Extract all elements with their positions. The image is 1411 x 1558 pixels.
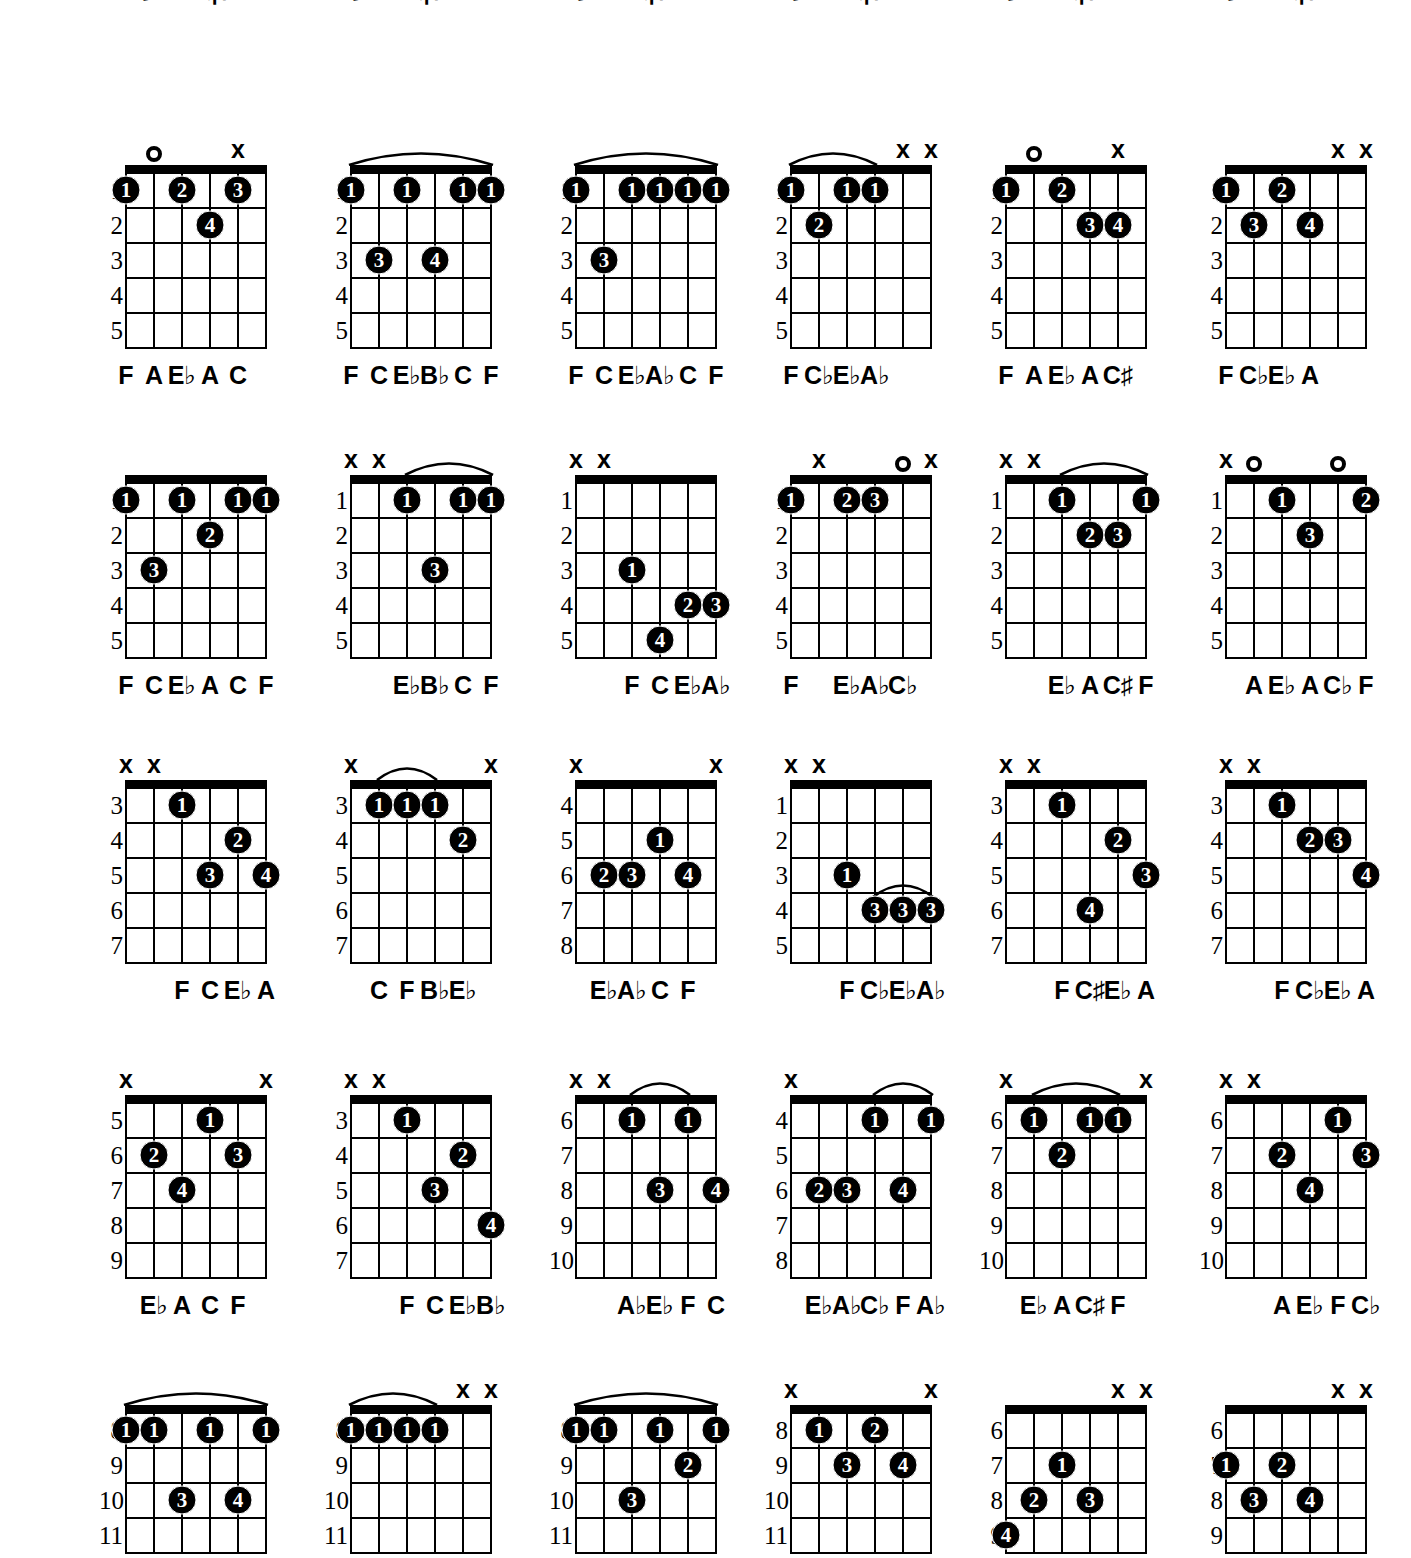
fret-number: 2 xyxy=(764,827,788,852)
chord-diagram[interactable]: 6789xx1234 xyxy=(1195,1390,1411,1558)
fret-line xyxy=(575,1207,717,1209)
muted-string-marker: x xyxy=(812,752,826,777)
fret-line xyxy=(125,1517,267,1519)
chord-diagram[interactable]: 34567xx1234FCE♭B♭ xyxy=(320,1080,555,1388)
open-string-marker xyxy=(1026,146,1042,162)
finger-dot: 1 xyxy=(1132,485,1161,514)
chord-diagram[interactable]: 12345xx1113E♭B♭CF xyxy=(320,460,555,768)
fret-line xyxy=(790,787,932,789)
note-name: E♭ xyxy=(833,673,862,698)
chord-diagram[interactable]: 12345xx1112FC♭E♭A♭ xyxy=(760,150,995,458)
chord-diagram[interactable]: 12345xx1234FC♭E♭A xyxy=(1195,150,1411,458)
fret-line xyxy=(1005,1517,1147,1519)
chord-diagram[interactable]: 12345111134FCE♭B♭CF xyxy=(320,150,555,458)
chord-diagram[interactable]: 891011111134 xyxy=(95,1390,330,1558)
fret-number: 10 xyxy=(99,1487,123,1512)
fret-line xyxy=(125,1552,267,1554)
string-line xyxy=(237,1102,239,1277)
fret-number: 6 xyxy=(1199,1107,1223,1132)
chord-diagram[interactable]: 12345x1234FAE♭AC♯ xyxy=(975,150,1210,458)
fret-number: 5 xyxy=(324,862,348,887)
chord-diagram[interactable]: 34567xx1234FCE♭A xyxy=(95,765,330,1073)
string-line xyxy=(209,482,211,657)
fret-line xyxy=(790,657,932,659)
fret-number: 6 xyxy=(979,1107,1003,1132)
note-name: C xyxy=(679,363,697,388)
finger-dot: 2 xyxy=(674,1450,703,1479)
finger-dot: 1 xyxy=(112,175,141,204)
fret-number: 2 xyxy=(99,522,123,547)
fret-line xyxy=(1005,1242,1147,1244)
muted-string-marker: x xyxy=(1331,1377,1345,1402)
muted-string-marker: x xyxy=(1111,1377,1125,1402)
fret-line xyxy=(1005,312,1147,314)
chord-diagram[interactable]: 12345111123FCE♭ACF xyxy=(95,460,330,768)
chord-diagram[interactable]: 12345xx1234FCE♭A♭ xyxy=(545,460,780,768)
muted-string-marker: x xyxy=(784,1377,798,1402)
note-name: F xyxy=(1110,1293,1125,1318)
string-line xyxy=(1033,482,1035,657)
fret-line xyxy=(125,552,267,554)
finger-dot: 3 xyxy=(861,895,890,924)
fret-number: 5 xyxy=(979,627,1003,652)
note-name: F xyxy=(1330,1293,1345,1318)
chord-diagram[interactable]: 12345x1234FAE♭AC xyxy=(95,150,330,458)
chord-diagram[interactable]: 678910xx1134A♭E♭FC xyxy=(545,1080,780,1388)
note-name: E♭ xyxy=(393,673,422,698)
string-line xyxy=(237,787,239,962)
fretboard-grid xyxy=(1005,787,1145,962)
fret-line xyxy=(1225,587,1367,589)
chord-diagram[interactable]: 891011xx1234 xyxy=(760,1390,995,1558)
fret-number: 3 xyxy=(549,557,573,582)
note-name: A♭ xyxy=(617,978,647,1003)
chord-diagram[interactable]: 891011xx1111 xyxy=(320,1390,555,1558)
fret-number: 10 xyxy=(324,1487,348,1512)
chord-diagram[interactable]: 56789xx1234E♭ACF xyxy=(95,1080,330,1388)
chord-diagram[interactable]: 678910xx1112E♭AC♯F xyxy=(975,1080,1210,1388)
chord-diagram[interactable]: 12345xx123FE♭A♭C♭ xyxy=(760,460,995,768)
chord-diagram[interactable]: 6789xx1234 xyxy=(975,1390,1210,1558)
chord-diagram[interactable]: 45678xx1234E♭A♭CF xyxy=(545,765,780,1073)
chord-diagram[interactable]: 45678x11234E♭A♭C♭FA♭ xyxy=(760,1080,995,1388)
chord-diagram[interactable]: 891011111123 xyxy=(545,1390,780,1558)
string-line xyxy=(153,1102,155,1277)
note-name: C xyxy=(370,363,388,388)
note-name: F xyxy=(1218,363,1233,388)
chord-diagram[interactable]: 12345xx1123E♭AC♯F xyxy=(975,460,1210,768)
chord-diagram[interactable]: 12345x123AE♭AC♭F xyxy=(1195,460,1411,768)
fret-number: 6 xyxy=(1199,1417,1223,1442)
barre-arc xyxy=(624,1078,696,1096)
fret-line xyxy=(575,622,717,624)
chord-diagram[interactable]: 678910xx1234AE♭FC♭ xyxy=(1195,1080,1411,1388)
chord-diagram[interactable]: 12345111113FCE♭A♭CF xyxy=(545,150,780,458)
fret-line xyxy=(1005,927,1147,929)
fret-number: 2 xyxy=(324,522,348,547)
fret-number: 5 xyxy=(1199,317,1223,342)
chord-diagram[interactable]: 34567xx1234FC♯E♭A xyxy=(975,765,1210,1073)
note-name: E♭ xyxy=(805,1293,834,1318)
note-name: A xyxy=(173,1293,191,1318)
fret-number: 9 xyxy=(979,1212,1003,1237)
chord-diagram[interactable]: 12345xx1333FC♭E♭A♭ xyxy=(760,765,995,1073)
fret-line xyxy=(790,1277,932,1279)
note-name: C xyxy=(707,1293,725,1318)
muted-string-marker: x xyxy=(709,752,723,777)
fret-number: 4 xyxy=(324,592,348,617)
fret-line xyxy=(1225,1447,1367,1449)
fret-number: 1 xyxy=(549,487,573,512)
fret-number: 1 xyxy=(1199,487,1223,512)
fret-number: 6 xyxy=(549,862,573,887)
string-line xyxy=(1253,482,1255,657)
chord-diagram[interactable]: 34567xx1234FC♭E♭A xyxy=(1195,765,1411,1073)
fret-line xyxy=(1005,517,1147,519)
chord-diagram[interactable]: 34567xx1112CFB♭E♭ xyxy=(320,765,555,1073)
fret-line xyxy=(1225,1242,1367,1244)
string-line xyxy=(490,787,492,962)
nut-bar xyxy=(1005,780,1147,787)
fret-line xyxy=(575,892,717,894)
finger-dot: 3 xyxy=(861,485,890,514)
fret-line xyxy=(1225,1172,1367,1174)
fret-number: 11 xyxy=(324,1522,348,1547)
fret-line xyxy=(575,587,717,589)
